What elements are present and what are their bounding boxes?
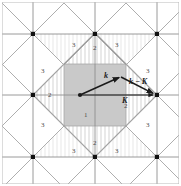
figure-canvas: [0, 0, 181, 186]
zone-label-2-bottom: 2: [93, 140, 97, 147]
vector-label-k: k: [104, 72, 108, 80]
zone-label-2-top: 2: [93, 45, 97, 52]
zone-label-3-right-upper: 3: [146, 68, 150, 75]
zone-label-2-left: 2: [48, 92, 52, 99]
zone-label-3-right-lower: 3: [146, 122, 150, 129]
zone-label-3-bottom-left: 3: [72, 148, 76, 155]
zone-label-1: 1: [84, 112, 88, 119]
brillouin-zone-figure: 1 2 2 2 2 3 3 3 3 3 3 3 3 k k − K K: [0, 0, 181, 186]
zone-label-3-left-upper: 3: [41, 68, 45, 75]
zone-label-3-top-right: 3: [115, 42, 119, 49]
zone-label-3-bottom-right: 3: [115, 148, 119, 155]
zone-label-3-top-left: 3: [72, 42, 76, 49]
zone-label-3-left-lower: 3: [41, 122, 45, 129]
vector-label-K: K: [122, 97, 127, 105]
vector-label-k-minus-K: k − K: [129, 78, 147, 86]
